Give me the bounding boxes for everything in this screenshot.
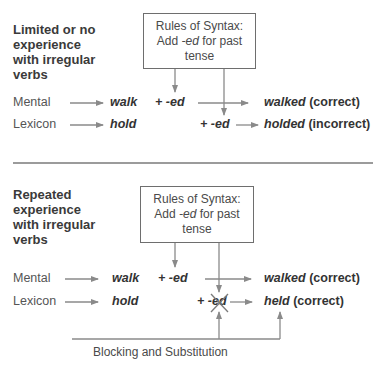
rule-line: Rules of Syntax:	[141, 192, 253, 207]
panel1-row-mental-word: walk	[110, 95, 137, 109]
result-note: (incorrect)	[305, 117, 370, 131]
rule-line: Add -ed for past	[144, 34, 255, 49]
heading-line: verbs	[13, 67, 95, 82]
rule-text: Add	[154, 207, 179, 221]
panel2-row-mental-label: Mental	[13, 271, 51, 285]
panel2-row-mental-word: walk	[112, 271, 139, 285]
panel2-row-lexicon-suffix-blocked: + -ed	[197, 294, 227, 308]
panel1-row-lexicon-suffix: + -ed	[200, 117, 230, 131]
result-word: walked	[264, 271, 306, 285]
panel1-row-lexicon-result: holded (incorrect)	[264, 117, 370, 131]
result-note: (correct)	[290, 294, 344, 308]
rule-text: for past	[199, 34, 242, 48]
heading-line: Repeated	[13, 187, 95, 202]
panel2-heading: Repeated experience with irregular verbs	[13, 187, 95, 247]
rule-line: tense	[144, 49, 255, 64]
result-word: held	[264, 294, 290, 308]
heading-line: verbs	[13, 232, 95, 247]
result-note: (correct)	[306, 271, 360, 285]
panel1-row-mental-result: walked (correct)	[264, 95, 360, 109]
rule-text: for past	[196, 207, 239, 221]
rule-text: Add	[157, 34, 182, 48]
heading-line: experience	[13, 37, 95, 52]
panel1-row-mental-suffix: + -ed	[155, 95, 185, 109]
result-word: holded	[264, 117, 305, 131]
heading-line: experience	[13, 202, 95, 217]
rule-line: Rules of Syntax:	[144, 19, 255, 34]
panel2-row-mental-result: walked (correct)	[264, 271, 360, 285]
rule-line: Add -ed for past	[141, 207, 253, 222]
panel2-row-mental-suffix: + -ed	[158, 271, 188, 285]
panel1-row-lexicon-word: hold	[110, 117, 136, 131]
panel2-syntax-rule-box: Rules of Syntax: Add -ed for past tense	[140, 186, 254, 243]
heading-line: Limited or no	[13, 22, 95, 37]
panel2-row-lexicon-word: hold	[112, 294, 138, 308]
blocking-substitution-label: Blocking and Substitution	[93, 345, 228, 359]
panel2-row-lexicon-label: Lexicon	[13, 294, 56, 308]
panel1-syntax-rule-box: Rules of Syntax: Add -ed for past tense	[143, 13, 256, 69]
rule-suffix: -ed	[181, 34, 198, 48]
rule-line: tense	[141, 222, 253, 237]
heading-line: with irregular	[13, 217, 95, 232]
panel2-row-lexicon-result: held (correct)	[264, 294, 344, 308]
rule-suffix: -ed	[179, 207, 196, 221]
heading-line: with irregular	[13, 52, 95, 67]
panel1-row-mental-label: Mental	[13, 95, 51, 109]
panel1-heading: Limited or no experience with irregular …	[13, 22, 95, 82]
result-word: walked	[264, 95, 306, 109]
panel1-row-lexicon-label: Lexicon	[13, 117, 56, 131]
result-note: (correct)	[306, 95, 360, 109]
